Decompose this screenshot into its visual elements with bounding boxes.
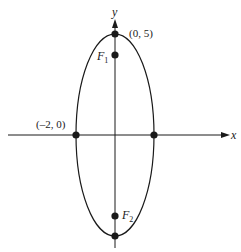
top-vertex-label: (0, 5) [129, 27, 153, 40]
y-axis: y [111, 5, 118, 248]
left-vertex-label: (–2, 0) [36, 118, 66, 131]
focus-2-point [111, 212, 118, 219]
focus-1-subscript: 1 [104, 56, 108, 65]
bottom-vertex-point [111, 232, 118, 239]
focus-1-label: F1 [96, 49, 108, 65]
x-axis-label: x [230, 128, 237, 142]
x-axis: x [8, 128, 237, 142]
y-axis-arrow-icon [112, 19, 118, 28]
y-axis-label: y [111, 5, 118, 19]
focus-2-subscript: 2 [129, 215, 133, 224]
x-axis-arrow-icon [221, 132, 230, 138]
left-vertex-point [72, 131, 79, 138]
top-vertex-point [111, 30, 118, 37]
focus-2-label: F2 [121, 208, 133, 224]
focus-1-point [111, 51, 118, 58]
ellipse-diagram: x y (0, 5) (–2, 0) F1 F2 [0, 0, 241, 252]
right-vertex-point [150, 131, 157, 138]
